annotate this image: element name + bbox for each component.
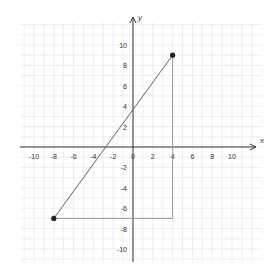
x-tick-label: 10 <box>228 153 236 160</box>
axes: xy <box>20 13 265 262</box>
x-tick-label: 2 <box>151 153 155 160</box>
y-tick-label: -2 <box>121 164 127 171</box>
x-tick-label: 6 <box>190 153 194 160</box>
y-tick-label: -4 <box>121 185 127 192</box>
grid-lines <box>20 22 262 262</box>
y-tick-label: 6 <box>123 83 127 90</box>
y-axis-label: y <box>137 13 143 22</box>
y-tick-label: -10 <box>117 246 127 253</box>
data-point <box>170 53 175 58</box>
x-axis-label: x <box>259 136 265 145</box>
y-tick-label: 4 <box>123 103 127 110</box>
x-tick-label: -2 <box>110 153 116 160</box>
y-tick-label: 2 <box>123 124 127 131</box>
data-point <box>51 216 56 221</box>
x-tick-label: -6 <box>70 153 76 160</box>
y-tick-label: 10 <box>119 42 127 49</box>
x-tick-label: 0 <box>131 153 135 160</box>
x-tick-label: 8 <box>210 153 214 160</box>
x-tick-label: -4 <box>90 153 96 160</box>
y-tick-label: -8 <box>121 226 127 233</box>
coordinate-plane: xy -10-8-6-4-20246810108642-2-4-6-8-10 <box>0 0 277 277</box>
x-tick-label: -10 <box>29 153 39 160</box>
x-tick-label: -8 <box>51 153 57 160</box>
y-tick-label: -6 <box>121 205 127 212</box>
y-tick-label: 8 <box>123 62 127 69</box>
